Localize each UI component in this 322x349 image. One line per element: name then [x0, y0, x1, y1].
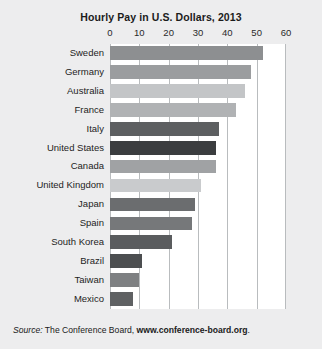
- source-suffix: .: [248, 325, 250, 335]
- bar-label-taiwan: Taiwan: [74, 273, 104, 287]
- bar-south-korea: [110, 235, 172, 249]
- x-axis-tick-labels: 0102030405060: [110, 27, 286, 41]
- bar-united-kingdom: [110, 179, 201, 193]
- bar-row: Australia: [110, 82, 286, 101]
- source-prefix: Source:: [13, 325, 43, 335]
- bar-label-spain: Spain: [80, 216, 104, 230]
- bar-sweden: [110, 46, 263, 60]
- bar-row: Mexico: [110, 290, 286, 309]
- bar-japan: [110, 198, 195, 212]
- x-tick-20: 20: [163, 27, 174, 38]
- bar-label-mexico: Mexico: [74, 292, 104, 306]
- bar-label-canada: Canada: [71, 159, 104, 173]
- bar-spain: [110, 217, 192, 231]
- bar-label-brazil: Brazil: [80, 254, 104, 268]
- bar-taiwan: [110, 273, 139, 287]
- bar-australia: [110, 84, 245, 98]
- bar-label-south-korea: South Korea: [51, 235, 104, 249]
- bar-united-states: [110, 141, 216, 155]
- chart-card: Hourly Pay in U.S. Dollars, 2013 0102030…: [0, 0, 322, 349]
- bar-row: United States: [110, 139, 286, 158]
- x-tick-10: 10: [134, 27, 145, 38]
- bar-label-germany: Germany: [65, 65, 104, 79]
- chart-title: Hourly Pay in U.S. Dollars, 2013: [0, 11, 322, 23]
- x-tick-40: 40: [222, 27, 233, 38]
- bar-mexico: [110, 292, 133, 306]
- bar-label-sweden: Sweden: [70, 46, 104, 60]
- bar-label-united-states: United States: [47, 141, 104, 155]
- bar-row: Canada: [110, 157, 286, 176]
- bar-rows: SwedenGermanyAustraliaFranceItalyUnited …: [110, 44, 286, 309]
- bar-row: United Kingdom: [110, 176, 286, 195]
- bar-row: Brazil: [110, 252, 286, 271]
- bar-canada: [110, 160, 216, 174]
- bar-brazil: [110, 254, 142, 268]
- x-tick-0: 0: [107, 27, 112, 38]
- bar-row: Taiwan: [110, 271, 286, 290]
- bar-label-australia: Australia: [67, 84, 104, 98]
- bar-france: [110, 103, 236, 117]
- x-tick-50: 50: [251, 27, 262, 38]
- bar-row: Italy: [110, 120, 286, 139]
- bar-label-united-kingdom: United Kingdom: [36, 178, 104, 192]
- bar-row: France: [110, 101, 286, 120]
- x-tick-30: 30: [193, 27, 204, 38]
- source-note: Source: The Conference Board, www.confer…: [13, 325, 250, 335]
- bar-germany: [110, 65, 251, 79]
- source-url[interactable]: www.conference-board.org: [137, 325, 248, 335]
- bar-row: Spain: [110, 214, 286, 233]
- bar-row: Sweden: [110, 44, 286, 63]
- source-publisher: The Conference Board,: [45, 325, 134, 335]
- bar-italy: [110, 122, 219, 136]
- bar-row: Japan: [110, 195, 286, 214]
- x-tick-60: 60: [281, 27, 292, 38]
- bar-row: Germany: [110, 63, 286, 82]
- plot-area: SwedenGermanyAustraliaFranceItalyUnited …: [110, 44, 286, 309]
- bar-label-japan: Japan: [78, 197, 104, 211]
- bar-row: South Korea: [110, 233, 286, 252]
- bar-label-italy: Italy: [87, 122, 104, 136]
- bar-label-france: France: [74, 103, 104, 117]
